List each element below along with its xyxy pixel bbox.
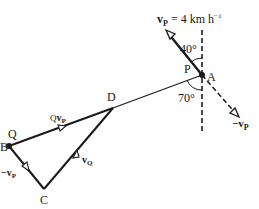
neg-vp-arrowhead-icon [230,108,239,117]
label-C: C [40,193,48,207]
qvp-label: QvP [50,112,67,125]
point-A-dot [199,72,205,78]
label-P: P [184,62,191,76]
label-B: B [0,140,8,154]
label-A: A [207,70,216,84]
relative-velocity-diagram: A P B Q C D vP = 4 km h−1 40° 70° −vP Qv… [0,0,259,209]
vp-equation-label: vP = 4 km h−1 [157,12,222,28]
neg-vp-right-label: −vP [232,117,249,132]
angle-70-label: 70° [178,91,195,105]
vp-arrowhead-icon [166,30,175,39]
angle-40-label: 40° [180,42,197,56]
angle-arc-40 [191,58,202,62]
neg-vp-left-label: −vP [1,167,17,180]
angle-arc-70 [187,80,202,90]
vq-label: vQ [82,154,93,167]
label-Q: Q [8,127,17,141]
label-D: D [107,90,116,104]
qvp-arrowhead-icon [58,125,66,131]
